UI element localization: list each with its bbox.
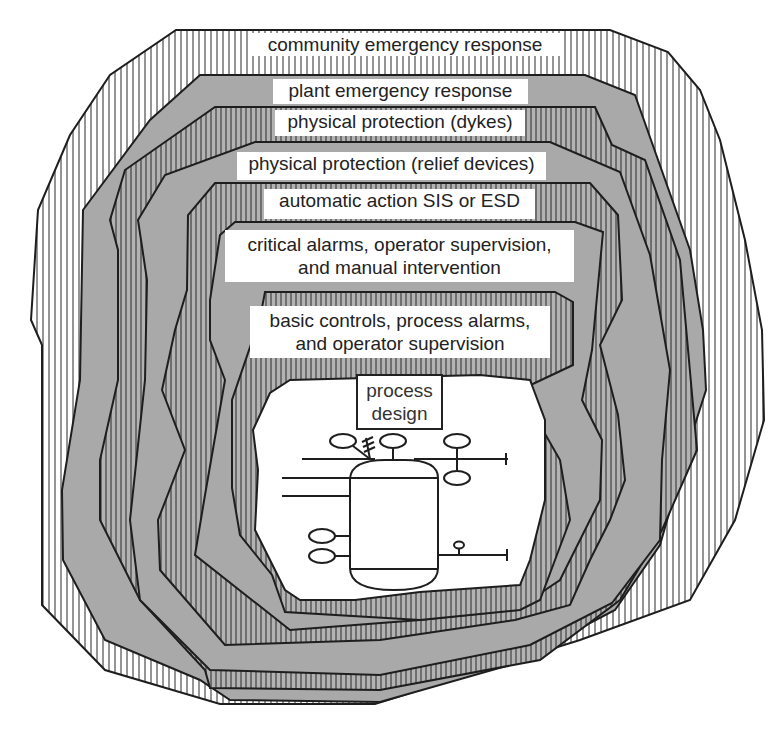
label-critical-alarms: critical alarms, operator supervision, a… <box>225 230 574 282</box>
label-text: community emergency response <box>254 33 556 56</box>
label-physical-protection-relief: physical protection (relief devices) <box>237 152 546 180</box>
label-text-line2: and manual intervention <box>229 256 570 279</box>
label-text: physical protection (dykes) <box>279 110 521 133</box>
label-automatic-action-sis-esd: automatic action SIS or ESD <box>264 189 535 219</box>
label-text: automatic action SIS or ESD <box>268 189 531 212</box>
label-text: physical protection (relief devices) <box>241 152 542 175</box>
label-text: plant emergency response <box>277 79 524 102</box>
label-text-line2: design <box>358 402 441 425</box>
label-basic-controls: basic controls, process alarms, and oper… <box>250 306 550 358</box>
label-plant-emergency-response: plant emergency response <box>273 79 528 104</box>
label-text-line2: and operator supervision <box>254 332 546 355</box>
label-text-line1: critical alarms, operator supervision, <box>229 233 570 256</box>
label-text-line1: basic controls, process alarms, <box>254 309 546 332</box>
label-process-design: process design <box>356 374 443 430</box>
label-physical-protection-dykes: physical protection (dykes) <box>275 110 525 136</box>
label-community-emergency-response: community emergency response <box>250 33 560 56</box>
label-text-line1: process <box>358 379 441 402</box>
